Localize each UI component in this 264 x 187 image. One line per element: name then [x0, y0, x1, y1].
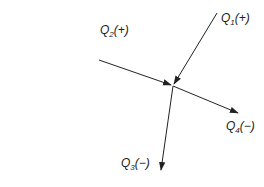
label-q4: Q4(−): [226, 119, 255, 135]
flow-q4-arrow: [173, 86, 238, 113]
flow-q2-arrow: [99, 60, 171, 85]
label-q3: Q3(−): [121, 156, 150, 172]
flow-q3-arrow: [161, 86, 173, 170]
flow-junction-diagram: Q1(+) Q2(+) Q3(−) Q4(−): [0, 0, 264, 187]
label-q1: Q1(+): [221, 11, 250, 27]
flow-q1-arrow: [174, 13, 217, 84]
label-q2: Q2(+): [100, 23, 129, 39]
